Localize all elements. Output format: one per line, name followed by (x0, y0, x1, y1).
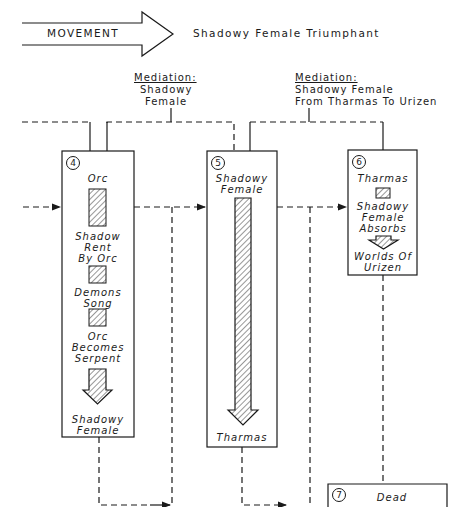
box-6-number: 6 (352, 155, 366, 169)
diagram-title: Shadowy Female Triumphant (193, 28, 380, 39)
hatch-down-arrow (369, 236, 398, 249)
box-4-item: Song (70, 298, 126, 309)
box-6-item: Tharmas (350, 173, 416, 184)
box-4-item: Shadowy (70, 414, 126, 425)
box-6-item: Worlds Of (350, 251, 416, 262)
box-4-item: Serpent (70, 353, 126, 364)
box-5-item: Shadowy (210, 173, 274, 184)
box-4-item: Becomes (70, 342, 126, 353)
movement-label: MOVEMENT (47, 28, 119, 39)
box-5-number: 5 (211, 156, 225, 170)
box-4-item: Shadow (70, 231, 126, 242)
box-4-item: By Orc (70, 253, 126, 264)
mediation-1-heading: Mediation: (134, 72, 197, 83)
hatch-block (89, 189, 106, 226)
box-6-item: Shadowy (350, 201, 416, 212)
box-4-item: Orc (85, 173, 111, 184)
box-5-item: Tharmas (210, 432, 274, 443)
box-7-number: 7 (332, 488, 346, 502)
mediation-2-heading: Mediation: (295, 72, 358, 83)
box-4-item: Demons (70, 287, 126, 298)
box-4-item: Orc (70, 331, 126, 342)
hatch-block (89, 309, 106, 326)
box-4-item: Rent (70, 242, 126, 253)
box-7-item: Dead (362, 492, 422, 503)
hatch-down-arrow (83, 369, 112, 404)
hatch-long-arrow (228, 198, 258, 425)
box-6-item: Urizen (350, 262, 416, 273)
box-5-item: Female (210, 184, 274, 195)
box-6-item: Absorbs (350, 223, 416, 234)
hatch-block (89, 266, 106, 283)
box-4-item: Female (70, 425, 126, 436)
mediation-1-line2: Female (145, 96, 187, 107)
box-6-item: Female (350, 212, 416, 223)
mediation-2-line2: From Tharmas To Urizen (295, 96, 437, 107)
hatch-block (376, 188, 390, 198)
box-4-number: 4 (66, 156, 80, 170)
mediation-1-line1: Shadowy (140, 84, 192, 95)
mediation-2-line1: Shadowy Female (295, 84, 394, 95)
